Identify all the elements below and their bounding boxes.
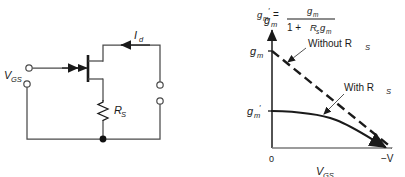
x-tick-label-negv: −V [381, 153, 394, 164]
formula-denominator-g-sub: m [326, 28, 332, 35]
terminal-output-positive[interactable] [157, 82, 163, 88]
terminal-gate-negative[interactable] [24, 81, 30, 87]
y-tick-label-gm-prime-mark: ′ [259, 103, 261, 112]
with-rs-label: With R [344, 82, 374, 93]
terminal-gate-positive[interactable] [26, 65, 32, 71]
without-rs-label-sub: S [365, 43, 370, 52]
y-tick-label-gm-prime: g [247, 105, 254, 117]
terminal-output-negative[interactable] [157, 98, 163, 104]
junction-dot [100, 136, 107, 143]
curve-with-rs [272, 111, 385, 147]
curve-without-rs [272, 51, 392, 148]
x-axis-title-sub: GS [323, 171, 334, 177]
graph-svg: Without R S With R S g m g m ′ g m 0 −V … [202, 0, 405, 177]
figure-root: R S I d V GS [0, 0, 405, 177]
resistor-label-sub: S [121, 110, 126, 119]
drain-current-label-sub: d [139, 35, 144, 44]
circuit-schematic-panel: R S I d V GS [0, 0, 202, 177]
formula-denominator-one: 1 + [287, 22, 301, 33]
circuit-svg: R S I d V GS [0, 0, 202, 177]
drain-current-label: I [134, 29, 137, 41]
with-rs-label-sub: S [386, 87, 391, 96]
circuit-wires [27, 45, 160, 139]
formula-equals: = [273, 9, 279, 20]
formula-lhs-sub: m [263, 15, 269, 22]
drain-branch-wire [103, 45, 160, 82]
output-return-wire [103, 104, 160, 139]
input-voltage-label-sub: GS [11, 75, 22, 84]
gm-vs-vgs-graph-panel: Without R S With R S g m g m ′ g m 0 −V … [202, 0, 405, 177]
source-return-wire [27, 87, 103, 139]
y-axis-title-sub: m [271, 20, 277, 29]
y-tick-label-gm-sub: m [257, 51, 263, 60]
formula-numerator-sub: m [313, 11, 319, 18]
without-rs-pointer-line [288, 48, 306, 62]
jfet-symbol [78, 55, 103, 82]
source-resistor [98, 100, 108, 121]
y-tick-label-gm: g [250, 45, 257, 57]
resistor-zigzag-icon [98, 100, 108, 121]
jfet-gate-arrow-icon [78, 64, 88, 72]
x-tick-label-zero: 0 [269, 154, 274, 164]
y-tick-label-gm-prime-sub: m [254, 111, 260, 120]
without-rs-label: Without R [308, 38, 352, 49]
